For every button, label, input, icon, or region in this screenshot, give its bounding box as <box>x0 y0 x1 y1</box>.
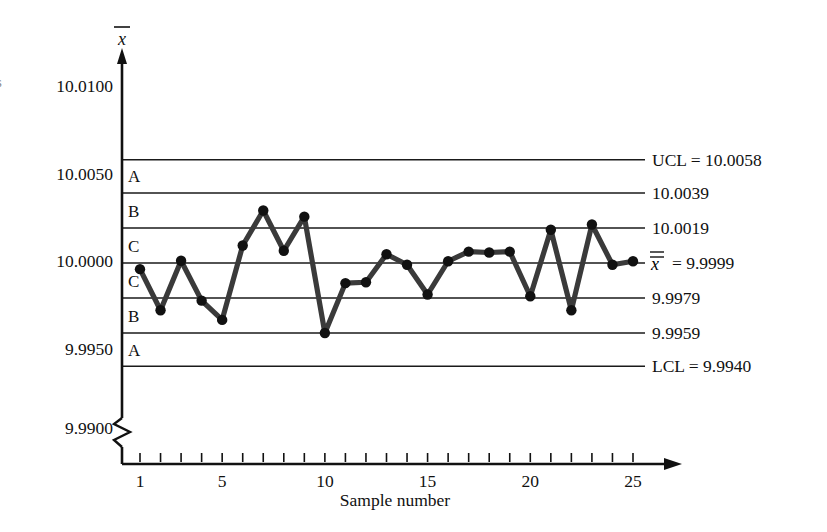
limit-label-ucl: UCL = 10.0058 <box>652 150 762 170</box>
data-point-23 <box>587 219 597 229</box>
data-point-4 <box>196 295 206 305</box>
data-point-14 <box>402 260 412 270</box>
chart-canvas: ABCCBA 10.010010.005010.00009.99509.9900… <box>0 0 827 532</box>
data-point-5 <box>217 315 227 325</box>
data-point-22 <box>566 305 576 315</box>
zone-upper-b-label: B <box>128 202 139 221</box>
x-tick-label-15: 15 <box>419 471 437 491</box>
zone-lower-c-label: C <box>128 272 139 291</box>
zone-upper-a-label: A <box>128 167 141 186</box>
data-point-18 <box>484 247 494 257</box>
axis-break-icon <box>114 418 130 447</box>
data-point-12 <box>361 277 371 287</box>
data-point-7 <box>258 205 268 215</box>
x-tick-label-5: 5 <box>218 471 227 491</box>
x-axis <box>122 458 682 470</box>
data-point-10 <box>320 328 330 338</box>
y-axis <box>114 48 130 464</box>
y-axis-title: x <box>114 27 130 49</box>
zone-upper-c-label: C <box>128 237 139 256</box>
data-point-19 <box>505 246 515 256</box>
data-point-9 <box>299 211 309 221</box>
data-series <box>135 205 638 338</box>
x-axis-tick-labels: 1510152025 <box>136 471 642 491</box>
x-tick-label-20: 20 <box>522 471 540 491</box>
zone-lower-b-label: B <box>128 307 139 326</box>
y-tick-label-10-0100: 10.0100 <box>56 76 113 96</box>
series-line <box>140 211 633 334</box>
x-tick-label-10: 10 <box>316 471 334 491</box>
data-point-6 <box>238 240 248 250</box>
data-point-25 <box>628 256 638 266</box>
data-point-3 <box>176 256 186 266</box>
data-point-17 <box>463 246 473 256</box>
data-point-15 <box>422 289 432 299</box>
x-axis-ticks <box>140 453 633 462</box>
limit-label-center: = 9.9999 <box>672 253 735 273</box>
data-point-2 <box>155 305 165 315</box>
data-point-16 <box>443 256 453 266</box>
control-limit-labels: UCL = 10.005810.003910.0019= 9.99999.997… <box>652 150 762 377</box>
y-tick-label-10-0000: 10.0000 <box>56 251 113 271</box>
y-axis-title-symbol: x <box>117 29 126 49</box>
limit-label-upper-2sigma: 10.0039 <box>652 183 709 203</box>
x-tick-label-1: 1 <box>136 471 145 491</box>
control-limit-lines <box>122 160 645 367</box>
x-axis-arrowhead <box>664 458 682 470</box>
y-axis-arrowhead <box>117 48 127 64</box>
data-point-8 <box>279 246 289 256</box>
limit-label-upper-1sigma: 10.0019 <box>652 218 709 238</box>
data-point-20 <box>525 291 535 301</box>
zone-lower-a-label: A <box>128 341 141 360</box>
y-tick-label-10-0050: 10.0050 <box>56 164 113 184</box>
data-point-1 <box>135 264 145 274</box>
data-point-11 <box>340 278 350 288</box>
limit-label-lower-2sigma: 9.9959 <box>652 323 700 343</box>
data-point-24 <box>607 260 617 270</box>
data-point-21 <box>546 225 556 235</box>
limit-label-lower-1sigma: 9.9979 <box>652 288 700 308</box>
x-tick-label-25: 25 <box>624 471 642 491</box>
x-axis-title: Sample number <box>340 490 450 510</box>
y-tick-label-9-9900: 9.9900 <box>65 418 113 438</box>
y-tick-label-9-9950: 9.9950 <box>65 339 113 359</box>
control-chart: s ABCCBA 10.010010.005010.00009.99509.99… <box>0 0 827 532</box>
y-axis-tick-labels: 10.010010.005010.00009.99509.9900 <box>56 76 113 438</box>
center-line-label-symbol: x <box>650 252 664 274</box>
limit-label-lcl: LCL = 9.9940 <box>652 356 751 376</box>
data-point-13 <box>381 249 391 259</box>
